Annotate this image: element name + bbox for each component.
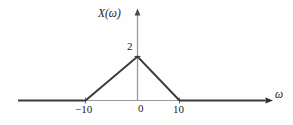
origin-label: 0 — [138, 103, 144, 114]
triangular-spectrum-curve — [18, 57, 265, 101]
x-axis-arrowhead-icon — [266, 98, 274, 104]
x-tick-label-neg-ten: −10 — [75, 104, 92, 115]
plot-canvas — [0, 0, 293, 125]
y-axis-label: X(ω) — [98, 8, 121, 20]
peak-value-label: 2 — [127, 41, 133, 52]
x-tick-label-ten: 10 — [173, 104, 184, 115]
x-axis-label: ω — [275, 89, 283, 101]
y-axis-arrowhead-icon — [135, 9, 141, 16]
spectrum-figure: X(ω) 2 0 −10 10 ω — [0, 0, 293, 125]
y-axis — [135, 9, 141, 102]
signal-trace — [18, 57, 265, 101]
